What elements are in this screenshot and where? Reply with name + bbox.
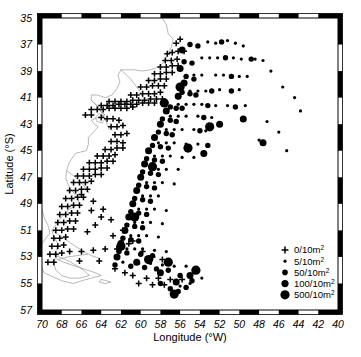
data-point-circle	[177, 115, 180, 118]
data-point-circle	[181, 59, 186, 64]
data-point-circle	[192, 128, 195, 131]
x-tick-label: 62	[115, 318, 127, 330]
data-point-circle	[214, 42, 217, 45]
data-point-circle	[160, 98, 169, 107]
data-point-circle	[153, 249, 156, 252]
data-point-circle	[201, 115, 206, 120]
data-point-circle	[193, 92, 198, 97]
data-point-circle	[168, 118, 173, 123]
legend-symbol-circle	[282, 270, 288, 276]
data-point-circle	[145, 147, 152, 154]
data-point-circle	[177, 65, 184, 72]
data-point-circle	[200, 56, 203, 59]
data-point-circle	[192, 156, 195, 159]
data-point-circle	[156, 129, 161, 134]
data-point-circle	[246, 75, 249, 78]
x-tick-label: 44	[293, 318, 305, 330]
data-point-circle	[244, 104, 247, 107]
x-tick-label: 70	[36, 318, 48, 330]
data-point-circle	[148, 162, 157, 171]
data-point-circle	[166, 145, 171, 150]
data-point-circle	[128, 237, 133, 242]
data-point-circle	[226, 104, 229, 107]
x-tick-label: 52	[214, 318, 226, 330]
data-point-circle	[197, 128, 202, 133]
data-point-circle	[218, 88, 221, 91]
data-point-circle	[179, 285, 182, 288]
data-point-circle	[163, 107, 170, 114]
data-point-circle	[216, 121, 223, 128]
y-axis-title: Latitude (°S)	[3, 133, 15, 194]
data-point-circle	[277, 131, 280, 134]
data-point-circle	[240, 115, 247, 122]
data-point-circle	[175, 93, 182, 100]
data-point-circle	[293, 96, 296, 99]
data-point-circle	[214, 104, 217, 107]
legend-symbol-circle	[283, 260, 286, 263]
data-point-circle	[121, 261, 124, 264]
data-point-circle	[177, 103, 180, 106]
x-tick-label: 64	[95, 318, 107, 330]
data-point-circle	[242, 44, 245, 47]
x-tick-label: 60	[135, 318, 147, 330]
data-point-circle	[281, 85, 284, 88]
data-point-circle	[144, 212, 149, 217]
data-point-circle	[170, 132, 175, 137]
data-point-circle	[153, 154, 156, 157]
data-point-circle	[141, 194, 144, 197]
data-point-circle	[133, 259, 140, 266]
data-point-circle	[206, 40, 209, 43]
data-point-circle	[223, 55, 228, 60]
data-point-circle	[158, 144, 163, 149]
data-point-circle	[137, 234, 140, 237]
x-tick-label: 48	[253, 318, 265, 330]
data-point-circle	[144, 255, 153, 264]
data-point-circle	[157, 235, 160, 238]
bubble-map-figure: 70686664626058565452504846444240 3537394…	[0, 0, 361, 357]
data-point-circle	[205, 122, 214, 131]
x-tick-label: 58	[155, 318, 167, 330]
data-point-circle	[299, 109, 302, 112]
legend-label: 50/10m2	[294, 267, 330, 278]
data-point-circle	[209, 88, 214, 93]
x-tick-label: 50	[233, 318, 245, 330]
data-point-circle	[145, 208, 148, 211]
data-point-circle	[191, 76, 196, 81]
data-point-circle	[195, 43, 200, 48]
data-point-circle	[133, 247, 136, 250]
data-point-circle	[125, 247, 128, 250]
y-tick-label: 35	[20, 12, 32, 24]
data-point-circle	[161, 154, 164, 157]
data-point-circle	[161, 222, 164, 225]
data-point-circle	[165, 250, 168, 253]
data-point-circle	[151, 134, 158, 141]
data-point-circle	[169, 154, 172, 157]
data-point-circle	[192, 74, 195, 77]
data-point-circle	[140, 225, 145, 230]
data-point-circle	[269, 70, 272, 73]
data-point-circle	[183, 144, 192, 153]
plot-svg: 70686664626058565452504846444240 3537394…	[0, 0, 361, 357]
data-point-circle	[229, 88, 234, 93]
data-point-circle	[196, 143, 199, 146]
data-point-circle	[144, 184, 149, 189]
data-point-circle	[136, 238, 141, 243]
data-point-circle	[214, 74, 217, 77]
data-point-circle	[165, 168, 168, 171]
data-point-circle	[177, 273, 182, 278]
data-point-circle	[238, 88, 241, 91]
data-point-circle	[187, 42, 192, 47]
data-point-circle	[240, 58, 243, 61]
data-point-circle	[238, 75, 241, 78]
data-point-circle	[196, 115, 199, 118]
data-point-circle	[179, 46, 186, 53]
legend-label: 500/10m2	[294, 289, 335, 300]
data-point-circle	[177, 168, 180, 171]
data-point-circle	[152, 185, 157, 190]
legend-symbol-circle	[280, 290, 289, 299]
data-point-circle	[164, 258, 173, 267]
x-tick-label: 42	[312, 318, 324, 330]
data-point-circle	[226, 39, 229, 42]
data-point-circle	[173, 182, 176, 185]
data-point-circle	[129, 200, 136, 207]
